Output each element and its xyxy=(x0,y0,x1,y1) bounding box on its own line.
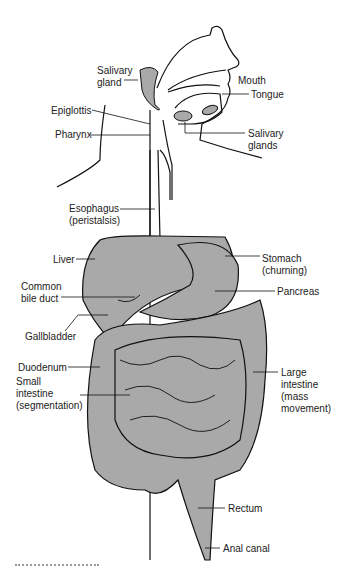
small-intestine-shape xyxy=(115,337,246,458)
label-stomach: Stomach (churning) xyxy=(262,253,307,277)
label-pharynx: Pharynx xyxy=(55,129,92,141)
label-rectum: Rectum xyxy=(228,503,262,515)
label-pancreas: Pancreas xyxy=(277,286,319,298)
head-outline xyxy=(157,26,262,158)
label-anal-canal: Anal canal xyxy=(223,543,270,555)
label-salivary-glands: Salivary glands xyxy=(248,128,284,152)
label-small-intestine: Small intestine (segmentation) xyxy=(16,376,83,412)
label-tongue: Tongue xyxy=(251,89,284,101)
label-duodenum: Duodenum xyxy=(18,362,67,374)
label-large-intestine: Large intestine (mass movement) xyxy=(281,367,331,415)
submandibular-gland xyxy=(174,111,192,121)
parotid-gland xyxy=(140,67,159,110)
label-common-bile-duct: Common bile duct xyxy=(21,281,62,305)
label-salivary-gland: Salivary gland xyxy=(97,65,133,89)
dotted-divider xyxy=(15,564,99,566)
label-epiglottis: Epiglottis xyxy=(51,105,92,117)
label-esophagus: Esophagus (peristalsis) xyxy=(69,203,120,227)
label-liver: Liver xyxy=(53,254,75,266)
sublingual-gland xyxy=(201,104,219,117)
label-gallbladder: Gallbladder xyxy=(25,331,76,343)
label-mouth: Mouth xyxy=(238,75,266,87)
